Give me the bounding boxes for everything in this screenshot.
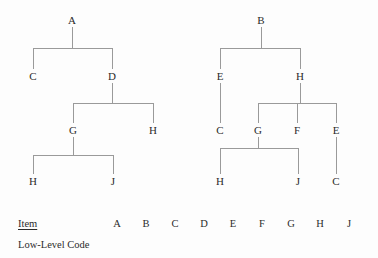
- tree-a-node-j: J: [105, 175, 121, 187]
- tree-a-node-c: C: [25, 70, 41, 82]
- product-structure-diagram: A C D G H H J B E H C G F E H J C Item L…: [0, 0, 378, 258]
- tree-b-node-b: B: [253, 14, 269, 26]
- tree-a-node-h2: H: [25, 175, 41, 187]
- table-column-header-a: A: [110, 218, 124, 230]
- tree-b-node-h1: H: [292, 70, 308, 82]
- tree-a-node-a: A: [64, 14, 80, 26]
- table-column-header-b: B: [139, 218, 153, 230]
- table-column-header-d: D: [197, 218, 211, 230]
- tree-b-node-c2: C: [328, 175, 344, 187]
- table-column-header-c: C: [168, 218, 182, 230]
- tree-a-node-h1: H: [145, 124, 161, 136]
- table-column-header-g: G: [284, 218, 298, 230]
- tree-b-node-e2: E: [328, 124, 344, 136]
- tree-b-node-e1: E: [212, 70, 228, 82]
- tree-a-node-g: G: [65, 124, 81, 136]
- tree-b-node-f: F: [289, 124, 305, 136]
- tree-b-node-j: J: [290, 175, 306, 187]
- table-column-header-j: J: [342, 218, 356, 230]
- tree-a-node-d: D: [104, 70, 120, 82]
- table-column-header-f: F: [255, 218, 269, 230]
- tree-b-node-h2: H: [212, 175, 228, 187]
- table-row-label-low-level-code: Low-Level Code: [18, 239, 89, 251]
- table-column-header-e: E: [226, 218, 240, 230]
- tree-b-node-c1: C: [212, 124, 228, 136]
- table-column-header-h: H: [313, 218, 327, 230]
- table-row-label-item: Item: [18, 218, 37, 230]
- tree-b-node-g: G: [250, 124, 266, 136]
